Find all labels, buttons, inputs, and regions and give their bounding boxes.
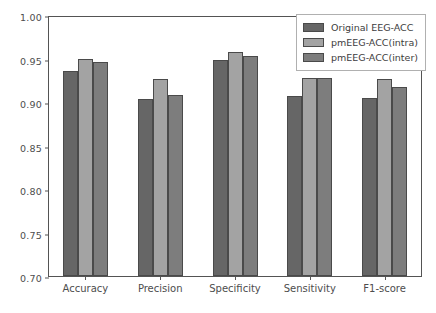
x-tick-label: Sensitivity [284,283,336,294]
bar[interactable] [243,56,258,276]
y-tick-label: 0.80 [20,186,42,197]
y-tick-label: 1.00 [20,12,42,23]
legend-item-label: pmEEG-ACC(intra) [331,37,418,48]
bar[interactable] [138,99,153,276]
legend-item[interactable]: pmEEG-ACC(inter) [303,50,418,65]
x-tick-label: Specificity [209,283,261,294]
x-tick-mark [310,276,311,280]
legend-swatch-icon [303,53,324,62]
bar-group-accuracy [63,17,108,276]
legend-item-label: Original EEG-ACC [331,22,413,33]
x-tick-mark [85,276,86,280]
y-tick-mark [45,234,49,235]
bar[interactable] [287,96,302,276]
y-tick-mark [45,278,49,279]
legend-swatch-icon [303,23,324,32]
x-tick-label: F1-score [363,283,406,294]
legend-item[interactable]: Original EEG-ACC [303,20,418,35]
bar[interactable] [168,95,183,276]
bar[interactable] [78,59,93,277]
bar[interactable] [377,79,392,276]
x-tick-mark [235,276,236,280]
bar[interactable] [302,78,317,276]
bar[interactable] [317,78,332,276]
bar-group-specificity [213,17,258,276]
bar[interactable] [93,62,108,276]
bar[interactable] [153,79,168,276]
y-tick-mark [45,104,49,105]
chart-legend: Original EEG-ACCpmEEG-ACC(intra)pmEEG-AC… [296,14,426,71]
y-tick-mark [45,60,49,61]
y-tick-mark [45,147,49,148]
x-tick-label: Precision [138,283,183,294]
y-tick-label: 0.85 [20,142,42,153]
bar[interactable] [392,87,407,276]
y-tick-label: 0.70 [20,273,42,284]
y-tick-mark [45,17,49,18]
x-tick-mark [160,276,161,280]
bar[interactable] [63,71,78,276]
x-tick-mark [385,276,386,280]
y-tick-mark [45,191,49,192]
bar[interactable] [228,52,243,276]
legend-item-label: pmEEG-ACC(inter) [331,52,418,63]
y-tick-label: 0.75 [20,229,42,240]
bar-chart-figure: 0.700.750.800.850.900.951.00 AccuracyPre… [0,0,436,313]
bar[interactable] [213,60,228,276]
y-tick-label: 0.95 [20,55,42,66]
legend-item[interactable]: pmEEG-ACC(intra) [303,35,418,50]
x-tick-label: Accuracy [63,283,109,294]
y-tick-label: 0.90 [20,99,42,110]
bar-group-precision [138,17,183,276]
legend-swatch-icon [303,38,324,47]
bar[interactable] [362,98,377,276]
